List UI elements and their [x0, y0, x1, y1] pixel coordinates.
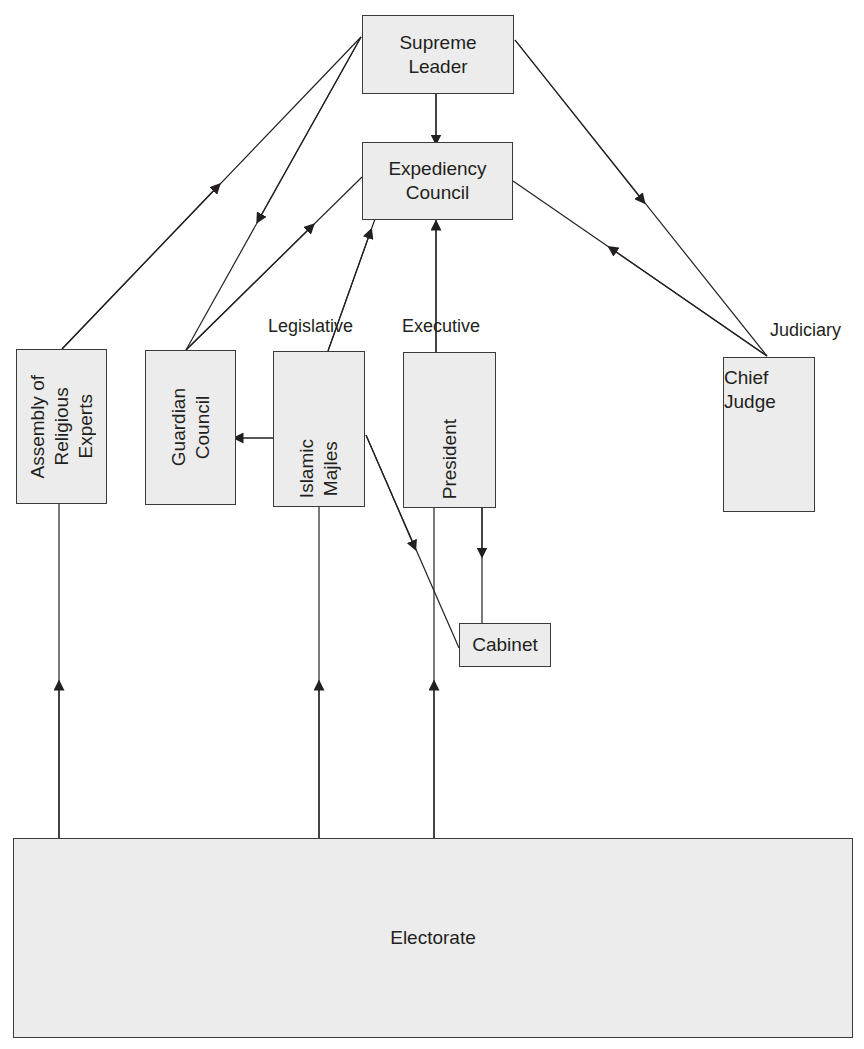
supreme-leader-label-2: Leader [408, 55, 467, 79]
node-cabinet: Cabinet [459, 623, 551, 667]
node-president: President [403, 352, 496, 508]
assembly-label-3: Experts [74, 375, 98, 478]
guardian-label-2: Council [191, 388, 215, 466]
node-expediency-council: Expediency Council [362, 142, 513, 220]
node-chief-judge: Chief Judge [723, 357, 815, 512]
majles-label-1: Islamic [295, 439, 319, 498]
cabinet-label: Cabinet [472, 633, 538, 657]
assembly-label-1: Assembly of [26, 375, 50, 478]
chief-judge-label-1: Chief [724, 366, 768, 390]
president-label: President [438, 419, 462, 499]
chief-judge-label-2: Judge [724, 390, 776, 414]
expediency-label-1: Expediency [388, 157, 486, 181]
branch-label-judiciary: Judiciary [770, 320, 841, 341]
majles-label-2: Majles [319, 439, 343, 498]
node-supreme-leader: Supreme Leader [362, 15, 514, 94]
branch-label-executive: Executive [402, 316, 480, 337]
node-electorate: Electorate [13, 838, 853, 1038]
supreme-leader-label-1: Supreme [399, 31, 476, 55]
node-guardian-council: Guardian Council [145, 350, 236, 505]
expediency-label-2: Council [406, 181, 469, 205]
branch-label-legislative: Legislative [268, 316, 353, 337]
assembly-label-2: Religious [50, 375, 74, 478]
node-islamic-majles: Islamic Majles [273, 351, 365, 507]
electorate-label: Electorate [390, 926, 476, 950]
node-assembly-of-religious-experts: Assembly of Religious Experts [16, 349, 107, 504]
guardian-label-1: Guardian [167, 388, 191, 466]
